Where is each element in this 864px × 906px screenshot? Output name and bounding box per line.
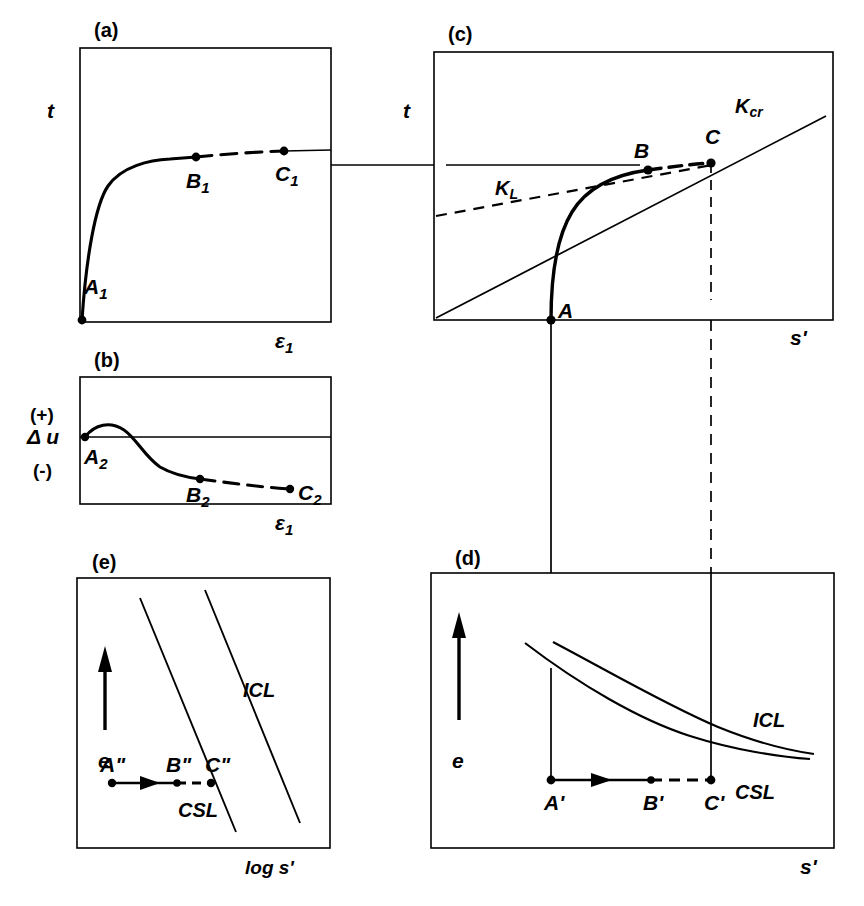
panel-b-minus-sign: (-) xyxy=(33,461,52,480)
panel-b-label-A2-base: A xyxy=(84,445,99,468)
panel-c-kcr-base: K xyxy=(735,95,749,117)
panel-d-label-B: B' xyxy=(643,792,663,813)
panel-d-xaxis-label: s' xyxy=(800,856,817,877)
panel-c-label-B: B xyxy=(634,140,649,161)
panel-c-kcr-line xyxy=(436,116,826,318)
panel-b-xaxis-label: ε1 xyxy=(275,512,293,537)
panel-e-point-A xyxy=(108,779,116,787)
panel-c-path-solid xyxy=(551,170,648,320)
panel-c-label-C: C xyxy=(705,126,720,147)
panel-a-point-C1 xyxy=(280,147,289,156)
panel-a-label-A1: A1 xyxy=(84,276,108,301)
panel-e-label-B: B" xyxy=(166,754,191,775)
panel-d-label-C: C' xyxy=(704,792,724,813)
panel-e-arrowhead xyxy=(140,776,160,790)
panel-a-label-C1: C1 xyxy=(275,163,299,188)
panel-c-frame xyxy=(434,52,833,320)
panel-b-label-A2: A2 xyxy=(84,446,108,471)
panel-a-xaxis-sub: 1 xyxy=(285,339,293,356)
panel-e-label-C: C" xyxy=(205,754,230,775)
panel-c-tag: (c) xyxy=(448,24,472,44)
panel-d-point-A xyxy=(547,776,556,785)
panel-b-point-C2 xyxy=(286,485,294,493)
panel-d-csl-label: CSL xyxy=(735,782,775,802)
panel-d-arrowhead xyxy=(591,773,612,787)
panel-c-kcr-label: Kcr xyxy=(735,96,763,119)
panel-a-yaxis-label: t xyxy=(47,100,54,121)
panel-b-xaxis-sub: 1 xyxy=(285,521,293,538)
panel-c-kl-base: K xyxy=(495,177,509,199)
panel-a-point-B1 xyxy=(192,153,201,162)
panel-e-point-B xyxy=(173,779,181,787)
panel-b-tag: (b) xyxy=(94,350,120,370)
panel-a-point-A1 xyxy=(78,316,87,325)
panel-b-label-C2-base: C xyxy=(298,481,313,504)
panel-d-icl-label: ICL xyxy=(753,710,785,730)
panel-a-label-A1-base: A xyxy=(84,275,99,298)
panel-b-label-B2-base: B xyxy=(186,483,201,506)
panel-c-yaxis-label: t xyxy=(403,100,410,121)
panel-e-xaxis-label: log s' xyxy=(245,858,294,877)
panel-e-csl-label: CSL xyxy=(178,800,218,820)
panel-a-label-C1-base: C xyxy=(275,162,290,185)
panel-c-kcr-sub: cr xyxy=(749,104,762,120)
panel-d-tag: (d) xyxy=(455,548,481,568)
panel-b-plus-sign: (+) xyxy=(30,405,54,424)
panel-e-point-C xyxy=(207,779,215,787)
panel-e-yaxis-arrowhead xyxy=(98,646,112,672)
panel-c-kl-sub: L xyxy=(509,186,518,202)
panel-d-point-C xyxy=(707,776,716,785)
panel-a-tag: (a) xyxy=(94,20,118,40)
panel-b-yaxis-label: Δ u xyxy=(27,426,59,447)
panel-a-label-B1: B1 xyxy=(186,170,210,195)
panel-c-xaxis-label: s' xyxy=(790,327,807,348)
panel-a-tail xyxy=(284,150,331,151)
panel-a-label-B1-sub: 1 xyxy=(201,179,209,196)
panel-b-curve-dashed xyxy=(200,479,290,489)
panel-e-icl-label: ICL xyxy=(243,680,275,700)
panel-c-kl-label: KL xyxy=(495,178,518,201)
panel-b-point-B2 xyxy=(196,475,204,483)
panel-a-xaxis-base: ε xyxy=(275,329,285,352)
figure-canvas: (a) t ε1 A1 B1 C1 (b) (+) Δ u (-) ε1 A2 … xyxy=(0,0,864,906)
panel-e-label-A: A" xyxy=(100,754,125,775)
panel-a-label-A1-sub: 1 xyxy=(99,285,107,302)
panel-c-point-B xyxy=(643,165,652,174)
panel-d-csl-curve xyxy=(525,643,810,759)
panel-d-label-A: A' xyxy=(544,792,564,813)
panel-b-label-A2-sub: 2 xyxy=(99,455,107,472)
panel-b-label-C2: C2 xyxy=(298,482,322,507)
panel-b-label-B2: B2 xyxy=(186,484,210,509)
panel-d-point-B xyxy=(647,776,655,784)
panel-b-point-A2 xyxy=(81,433,89,441)
panel-a-curve-dashed xyxy=(196,151,284,157)
panel-a-xaxis-label: ε1 xyxy=(275,330,293,355)
panel-d-icl-curve xyxy=(553,642,814,754)
panel-e-tag: (e) xyxy=(92,552,116,572)
panel-b-xaxis-base: ε xyxy=(275,511,285,534)
panel-c-label-A: A xyxy=(558,300,573,321)
panel-d-yaxis-arrowhead xyxy=(452,612,466,638)
panel-a-label-B1-base: B xyxy=(186,169,201,192)
figure-vector-layer xyxy=(0,0,864,906)
panel-b-label-C2-sub: 2 xyxy=(313,491,321,508)
panel-b-label-B2-sub: 2 xyxy=(201,493,209,510)
panel-e-icl-line xyxy=(205,590,300,823)
panel-a-label-C1-sub: 1 xyxy=(290,172,298,189)
panel-d-yaxis-label: e xyxy=(452,750,464,771)
